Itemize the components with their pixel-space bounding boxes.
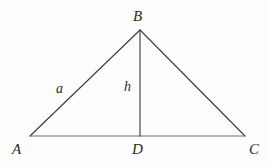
vertex-label-d: D [132,142,143,157]
side-length-label-a: a [56,82,63,96]
vertex-label-c: C [249,142,259,157]
triangle-side-bc-line [140,30,245,136]
geometry-figure: B A D C a h [0,0,268,166]
vertex-label-a: A [12,142,21,157]
vertex-label-b: B [133,9,142,24]
altitude-label-h: h [124,80,131,94]
